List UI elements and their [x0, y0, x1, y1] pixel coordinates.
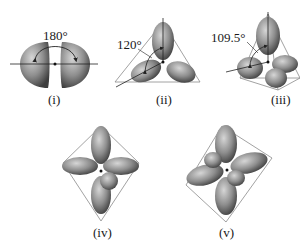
nucleus-dot	[100, 170, 103, 173]
orbital-lobe	[100, 172, 118, 190]
panel-iii: 109.5° (iii)	[211, 12, 300, 107]
orbital-lobe	[62, 157, 98, 175]
nucleus-dot	[54, 63, 57, 66]
panel-iv: (iv)	[62, 126, 139, 240]
nucleus-dot	[226, 169, 229, 172]
panel-caption: (i)	[48, 92, 60, 107]
orbital-lobe	[265, 68, 287, 88]
orbital-lobe	[20, 42, 50, 88]
panel-caption: (iv)	[93, 225, 112, 240]
angle-label: 109.5°	[211, 30, 245, 45]
panel-i: 180° (i)	[10, 28, 98, 107]
orbital-lobe	[61, 42, 91, 88]
angle-label: 120°	[117, 37, 142, 52]
nucleus-dot	[162, 61, 165, 64]
orbital-lobe	[204, 152, 222, 168]
panel-caption: (v)	[219, 225, 234, 240]
panel-caption: (ii)	[156, 92, 172, 107]
panel-ii: 120° (ii)	[115, 18, 200, 107]
orbital-lobe	[237, 57, 263, 79]
panel-caption: (iii)	[271, 92, 291, 107]
leader-line	[247, 42, 258, 53]
panel-v: (v)	[184, 125, 272, 240]
angle-label: 180°	[43, 28, 68, 43]
nucleus-dot	[267, 61, 270, 64]
hybrid-orbitals-figure: 180° (i) 120° (ii) 109.5° (iii)	[0, 0, 300, 241]
orbital-lobe	[227, 170, 245, 186]
orbital-lobe	[91, 126, 111, 164]
